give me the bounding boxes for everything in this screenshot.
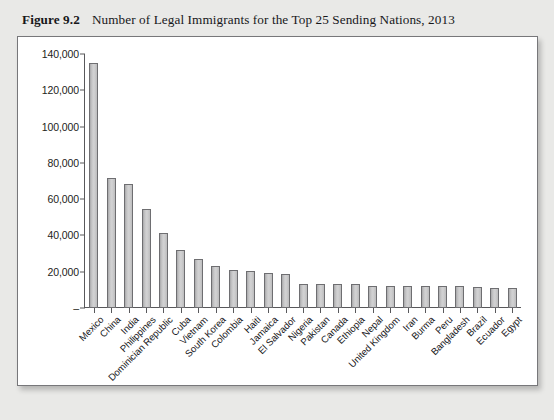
- x-axis-tick-mark: [390, 308, 391, 313]
- bar: [333, 284, 342, 308]
- x-axis-tick-mark: [512, 308, 513, 313]
- bar-slot: [368, 54, 377, 308]
- x-axis-tick-mark: [408, 308, 409, 313]
- y-axis-tick-label: 140,000: [42, 48, 79, 60]
- bar: [194, 259, 203, 308]
- bar-slot: [107, 54, 116, 308]
- x-axis-tick-mark: [181, 308, 182, 313]
- bar: [508, 288, 517, 308]
- bar-slot: [229, 54, 238, 308]
- bar: [159, 233, 168, 308]
- bar: [211, 266, 220, 308]
- bar-slot: [281, 54, 290, 308]
- bar: [455, 286, 464, 308]
- x-axis-tick-mark: [303, 308, 304, 313]
- bar-slot: [438, 54, 447, 308]
- bar-slot: [490, 54, 499, 308]
- bar: [89, 63, 98, 308]
- figure-title: Number of Legal Immigrants for the Top 2…: [92, 12, 455, 27]
- bar-slot: [142, 54, 151, 308]
- plot-area: 140,000120,000100,00080,00060,00040,0002…: [18, 37, 539, 387]
- chart-panel: 140,000120,000100,00080,00060,00040,0002…: [17, 36, 538, 386]
- figure-caption: Figure 9.2Number of Legal Immigrants for…: [22, 12, 532, 32]
- y-axis-tick-label: 80,000: [47, 157, 79, 169]
- bar-slot: [333, 54, 342, 308]
- x-axis-tick-mark: [443, 308, 444, 313]
- bar-slot: [176, 54, 185, 308]
- y-axis-tick-label: 20,000: [47, 266, 79, 278]
- x-axis-tick-mark: [495, 308, 496, 313]
- figure-number: Figure 9.2: [22, 12, 80, 27]
- bar: [403, 286, 412, 308]
- bar-slot: [264, 54, 273, 308]
- x-axis-tick-mark: [460, 308, 461, 313]
- x-axis-tick-mark: [129, 308, 130, 313]
- x-axis-tick-mark: [355, 308, 356, 313]
- bar-slot: [194, 54, 203, 308]
- x-axis-tick-mark: [338, 308, 339, 313]
- bar: [438, 286, 447, 308]
- x-axis-tick-mark: [477, 308, 478, 313]
- bar: [368, 286, 377, 308]
- bar: [281, 274, 290, 308]
- y-axis-tick-label: –: [73, 302, 79, 314]
- x-axis-tick-mark: [268, 308, 269, 313]
- bar-slot: [455, 54, 464, 308]
- x-axis-tick-mark: [163, 308, 164, 313]
- bar: [176, 250, 185, 308]
- x-axis-tick-mark: [198, 308, 199, 313]
- bar: [316, 284, 325, 308]
- bar: [386, 286, 395, 308]
- bar: [142, 209, 151, 308]
- bar-slot: [159, 54, 168, 308]
- bar-slot: [351, 54, 360, 308]
- bar-slot: [246, 54, 255, 308]
- figure-container: Figure 9.2Number of Legal Immigrants for…: [0, 0, 554, 420]
- y-axis-tick-label: 60,000: [47, 193, 79, 205]
- bar: [124, 184, 133, 308]
- y-axis-tick-label: 120,000: [42, 84, 79, 96]
- bar: [473, 287, 482, 308]
- x-axis-tick-mark: [216, 308, 217, 313]
- bar: [264, 273, 273, 308]
- x-axis-labels: MexicoChinaIndiaPhilippinesDominician Re…: [85, 314, 521, 384]
- y-axis-tick-label: 100,000: [42, 121, 79, 133]
- x-axis-tick-mark: [425, 308, 426, 313]
- bar: [299, 284, 308, 308]
- x-axis-tick-mark: [111, 308, 112, 313]
- bar: [229, 270, 238, 308]
- bar-slot: [421, 54, 430, 308]
- x-axis-tick-mark: [146, 308, 147, 313]
- bar-slot: [508, 54, 517, 308]
- bar-slot: [211, 54, 220, 308]
- x-axis-tick-mark: [320, 308, 321, 313]
- bar: [421, 286, 430, 308]
- bar-slot: [403, 54, 412, 308]
- bar-series: [85, 54, 521, 308]
- bar-slot: [316, 54, 325, 308]
- bar-slot: [124, 54, 133, 308]
- bar: [490, 288, 499, 308]
- bar-slot: [386, 54, 395, 308]
- y-axis-tick-label: 40,000: [47, 229, 79, 241]
- bar-slot: [89, 54, 98, 308]
- x-axis-tick-mark: [373, 308, 374, 313]
- bar: [246, 271, 255, 308]
- y-axis-ticks: 140,000120,000100,00080,00060,00040,0002…: [18, 37, 85, 387]
- x-axis-tick-mark: [251, 308, 252, 313]
- x-axis-tick-mark: [286, 308, 287, 313]
- bar: [351, 284, 360, 308]
- x-axis-tick-mark: [233, 308, 234, 313]
- bar: [107, 178, 116, 308]
- bar-slot: [299, 54, 308, 308]
- bar-slot: [473, 54, 482, 308]
- x-axis-tick-mark: [94, 308, 95, 313]
